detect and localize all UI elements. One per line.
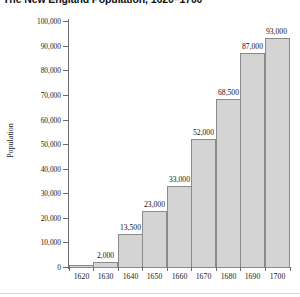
y-axis-title: Population <box>6 104 15 178</box>
bar-value-label-1630: 2,000 <box>83 252 128 260</box>
bar-1640 <box>118 234 143 268</box>
bar-1650 <box>142 211 167 268</box>
x-axis-tick <box>290 267 291 271</box>
bar-1620 <box>69 265 94 268</box>
bar-value-label-1680: 68,500 <box>206 89 251 97</box>
y-axis-tick <box>63 120 69 121</box>
y-axis-tick-label: 30,000 <box>41 190 61 197</box>
bar-chart-figure: Population 0 10,000 20,000 30,000 40,000… <box>0 0 300 297</box>
y-axis-tick-label: 90,000 <box>41 43 61 50</box>
y-axis-tick <box>63 46 69 47</box>
y-axis-tick <box>63 70 69 71</box>
bar-1680 <box>216 99 241 268</box>
y-axis-tick <box>63 95 69 96</box>
y-axis-tick-label: 20,000 <box>41 215 61 222</box>
y-axis-tick <box>63 218 69 219</box>
y-axis-tick-label: 80,000 <box>41 67 61 74</box>
x-axis-tick <box>118 267 119 271</box>
bar-1630 <box>93 262 118 268</box>
y-axis-tick <box>63 21 69 22</box>
y-axis-tick-label: 50,000 <box>41 141 61 148</box>
x-axis-tick <box>240 267 241 271</box>
y-axis-tick <box>63 144 69 145</box>
bar-1660 <box>167 186 192 268</box>
x-axis-tick <box>216 267 217 271</box>
y-axis-tick-label: 10,000 <box>41 239 61 246</box>
x-axis-tick <box>142 267 143 271</box>
bar-1700 <box>265 38 290 268</box>
page-rule <box>0 293 300 294</box>
x-axis-tick <box>167 267 168 271</box>
x-axis-tick <box>69 267 70 271</box>
y-axis-tick-label: 100,000 <box>37 18 61 25</box>
y-axis-tick-label: 0 <box>57 264 61 271</box>
bar-value-label-1700: 93,000 <box>254 28 299 36</box>
y-axis-tick-label: 70,000 <box>41 92 61 99</box>
bar-value-label-1670: 52,000 <box>181 129 226 137</box>
bar-value-label-1640: 13,500 <box>108 224 153 232</box>
y-axis-tick-label: 60,000 <box>41 117 61 124</box>
x-axis-tick <box>93 267 94 271</box>
y-axis-tick <box>63 193 69 194</box>
x-axis-label-1700: 1700 <box>262 273 293 281</box>
bar-value-label-1650: 23,000 <box>132 201 177 209</box>
bar-value-label-1660: 33,000 <box>157 176 202 184</box>
y-axis-tick-label: 40,000 <box>41 166 61 173</box>
y-axis-tick <box>63 169 69 170</box>
bar-1670 <box>191 139 216 268</box>
x-axis-tick <box>191 267 192 271</box>
y-axis-tick <box>63 242 69 243</box>
bar-1690 <box>240 53 265 268</box>
x-axis-tick <box>265 267 266 271</box>
bar-value-label-1690: 87,000 <box>230 43 275 51</box>
